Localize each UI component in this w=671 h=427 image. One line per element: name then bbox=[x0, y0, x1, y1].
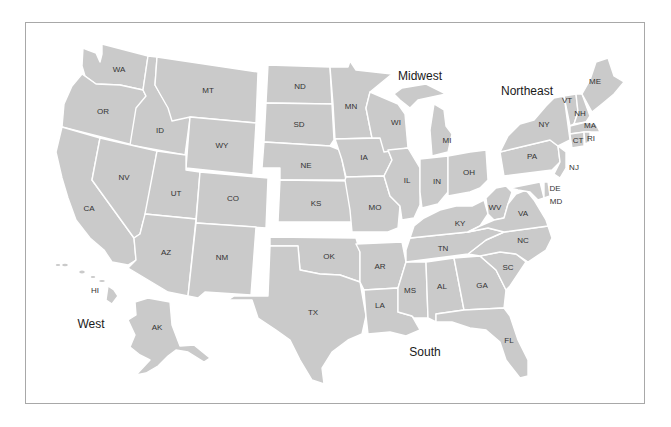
label-nd: ND bbox=[294, 82, 306, 91]
label-nh: NH bbox=[574, 109, 586, 118]
label-sc: SC bbox=[502, 263, 513, 272]
label-id: ID bbox=[156, 126, 164, 135]
label-tn: TN bbox=[438, 244, 449, 253]
label-ct: CT bbox=[573, 136, 584, 145]
state-ny[interactable] bbox=[500, 96, 570, 152]
label-ma: MA bbox=[584, 121, 597, 130]
state-mi-lower[interactable] bbox=[430, 104, 452, 156]
state-hi[interactable] bbox=[55, 263, 118, 304]
label-nc: NC bbox=[517, 236, 529, 245]
label-ms: MS bbox=[404, 286, 416, 295]
label-ut: UT bbox=[171, 189, 182, 198]
state-ak[interactable] bbox=[128, 298, 210, 375]
label-mn: MN bbox=[345, 102, 358, 111]
region-label-south: South bbox=[409, 345, 440, 359]
label-wy: WY bbox=[216, 141, 230, 150]
label-wa: WA bbox=[113, 65, 126, 74]
label-ak: AK bbox=[152, 323, 163, 332]
label-hi: HI bbox=[91, 286, 99, 295]
label-wi: WI bbox=[391, 118, 401, 127]
us-regions-map: WA OR CA ID NV MT WY UT CO AZ NM AK HI N… bbox=[0, 0, 671, 427]
label-nv: NV bbox=[118, 173, 130, 182]
region-label-west: West bbox=[77, 317, 105, 331]
label-or: OR bbox=[97, 107, 109, 116]
label-sd: SD bbox=[293, 120, 304, 129]
label-ri: RI bbox=[587, 134, 595, 143]
label-de: DE bbox=[549, 184, 560, 193]
label-co: CO bbox=[227, 194, 239, 203]
label-mo: MO bbox=[369, 203, 382, 212]
label-ar: AR bbox=[374, 262, 385, 271]
label-il: IL bbox=[404, 176, 411, 185]
label-ny: NY bbox=[538, 120, 550, 129]
state-mi[interactable] bbox=[394, 84, 446, 108]
label-ia: IA bbox=[360, 153, 368, 162]
label-va: VA bbox=[518, 209, 529, 218]
label-pa: PA bbox=[527, 152, 538, 161]
label-nm: NM bbox=[216, 253, 229, 262]
label-md: MD bbox=[550, 197, 563, 206]
label-ks: KS bbox=[311, 199, 322, 208]
region-northeast bbox=[500, 58, 624, 178]
label-ne: NE bbox=[300, 161, 311, 170]
label-oh: OH bbox=[463, 168, 475, 177]
label-ky: KY bbox=[455, 219, 466, 228]
label-tx: TX bbox=[308, 308, 319, 317]
state-fl[interactable] bbox=[436, 308, 528, 378]
label-ga: GA bbox=[476, 281, 488, 290]
label-az: AZ bbox=[161, 248, 171, 257]
label-la: LA bbox=[375, 301, 385, 310]
label-ca: CA bbox=[83, 204, 95, 213]
label-fl: FL bbox=[504, 336, 514, 345]
label-mt: MT bbox=[202, 86, 214, 95]
label-wv: WV bbox=[489, 203, 503, 212]
label-in: IN bbox=[433, 177, 441, 186]
label-vt: VT bbox=[562, 96, 572, 105]
region-label-northeast: Northeast bbox=[501, 84, 554, 98]
label-nj: NJ bbox=[569, 163, 579, 172]
label-mi: MI bbox=[443, 136, 452, 145]
label-al: AL bbox=[437, 282, 447, 291]
label-me: ME bbox=[589, 77, 601, 86]
region-label-midwest: Midwest bbox=[398, 69, 443, 83]
label-ok: OK bbox=[323, 252, 335, 261]
